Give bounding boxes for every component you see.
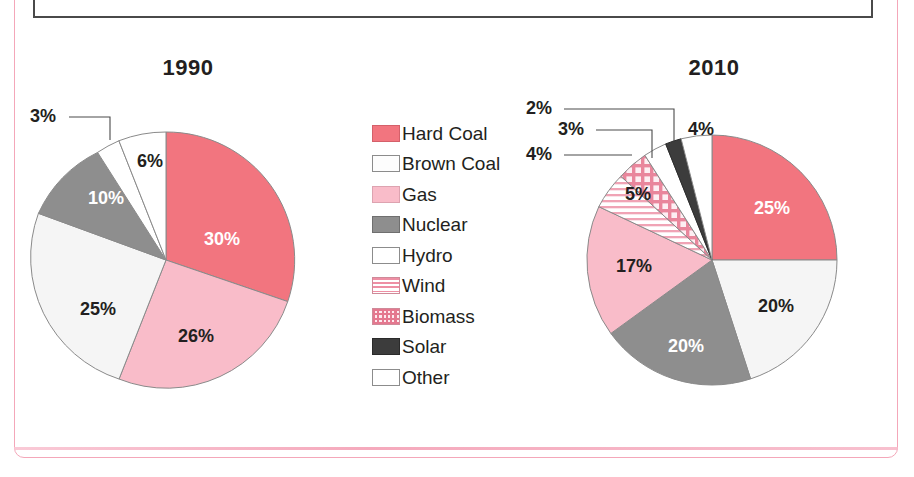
pie-1990-svg: 30% 26% 25% 10% 6% 3% — [28, 92, 348, 422]
legend-item-solar: Solar — [372, 332, 532, 363]
legend-item-hard-coal: Hard Coal — [372, 118, 532, 149]
slice-label-1990-other: 6% — [137, 151, 163, 171]
legend-item-other: Other — [372, 362, 532, 393]
slice-label-1990-nuclear: 10% — [88, 188, 124, 208]
legend-item-nuclear: Nuclear — [372, 210, 532, 241]
callout-label-2010-solar: 2% — [526, 98, 552, 118]
slice-label-2010-wind: 5% — [625, 184, 651, 204]
chart-title-1990: 1990 — [28, 55, 348, 81]
legend-label-other: Other — [402, 368, 450, 387]
leader-line-1990-hydro — [69, 117, 110, 140]
legend-swatch-hydro-icon — [372, 247, 400, 264]
pie-1990: 30% 26% 25% 10% 6% 3% — [28, 92, 348, 422]
legend-swatch-nuclear-icon — [372, 216, 400, 233]
pie-2010: 25% 20% 20% 17% 5% 4% 2% 3% 4% — [524, 92, 904, 422]
legend-item-biomass: Biomass — [372, 301, 532, 332]
legend-label-nuclear: Nuclear — [402, 215, 467, 234]
chart-legend: Hard Coal Brown Coal Gas Nuclear Hydro W… — [372, 118, 532, 393]
legend-label-hard-coal: Hard Coal — [402, 124, 488, 143]
chart-title-2010: 2010 — [554, 55, 874, 81]
slice-label-1990-hard-coal: 30% — [204, 229, 240, 249]
slice-label-2010-other: 4% — [688, 119, 714, 139]
legend-label-gas: Gas — [402, 185, 437, 204]
legend-item-wind: Wind — [372, 271, 532, 302]
legend-item-brown-coal: Brown Coal — [372, 149, 532, 180]
callout-label-1990-hydro: 3% — [30, 106, 56, 126]
slice-label-2010-hard-coal: 25% — [754, 198, 790, 218]
legend-swatch-biomass-icon — [372, 308, 400, 325]
pie-2010-svg: 25% 20% 20% 17% 5% 4% 2% 3% 4% — [524, 92, 904, 422]
charts-container: 1990 — [0, 0, 914, 477]
slice-label-2010-brown-coal: 20% — [758, 296, 794, 316]
legend-swatch-hard-coal-icon — [372, 125, 400, 142]
slice-label-2010-gas: 17% — [616, 256, 652, 276]
legend-label-brown-coal: Brown Coal — [402, 154, 500, 173]
legend-swatch-gas-icon — [372, 186, 400, 203]
legend-swatch-brown-coal-icon — [372, 155, 400, 172]
callout-label-2010-biomass: 4% — [526, 144, 552, 164]
callout-label-2010-hydro: 3% — [558, 119, 584, 139]
slice-label-1990-gas: 26% — [178, 326, 214, 346]
legend-swatch-solar-icon — [372, 338, 400, 355]
legend-item-gas: Gas — [372, 179, 532, 210]
legend-item-hydro: Hydro — [372, 240, 532, 271]
legend-label-wind: Wind — [402, 276, 445, 295]
legend-swatch-other-icon — [372, 369, 400, 386]
slice-label-2010-nuclear: 20% — [668, 336, 704, 356]
legend-label-hydro: Hydro — [402, 246, 453, 265]
legend-label-solar: Solar — [402, 337, 446, 356]
leader-line-2010-hydro — [596, 130, 652, 158]
legend-swatch-wind-icon — [372, 277, 400, 294]
slice-label-1990-brown-coal: 25% — [80, 299, 116, 319]
legend-label-biomass: Biomass — [402, 307, 475, 326]
